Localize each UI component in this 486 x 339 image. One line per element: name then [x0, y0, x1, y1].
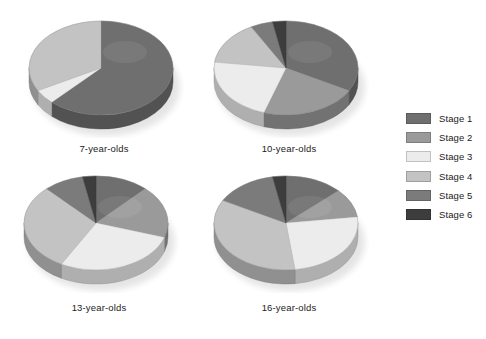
legend-item-stage-5: Stage 5: [406, 186, 484, 205]
pie-label-7-year-olds: 7-year-olds: [18, 143, 190, 154]
legend-swatch-stage-1: [406, 113, 431, 124]
legend-label-stage-6: Stage 6: [439, 209, 472, 220]
pie-canvas-16-year-olds: [203, 163, 375, 293]
legend-item-stage-6: Stage 6: [406, 205, 484, 224]
pie-chart-7-year-olds: 7-year-olds: [18, 8, 190, 160]
legend-swatch-stage-3: [406, 151, 431, 162]
legend-item-stage-1: Stage 1: [406, 109, 484, 128]
pie-chart-10-year-olds: 10-year-olds: [203, 8, 375, 160]
pie-canvas-7-year-olds: [18, 8, 190, 138]
legend-item-stage-2: Stage 2: [406, 128, 484, 147]
legend-label-stage-5: Stage 5: [439, 190, 472, 201]
pie-label-13-year-olds: 13-year-olds: [13, 302, 185, 313]
legend-swatch-stage-2: [406, 132, 431, 143]
pie-label-16-year-olds: 16-year-olds: [203, 302, 375, 313]
chart-legend: Stage 1 Stage 2 Stage 3 Stage 4 Stage 5 …: [406, 109, 484, 224]
pie-canvas-10-year-olds: [203, 8, 375, 138]
pie-canvas-13-year-olds: [13, 163, 185, 293]
legend-label-stage-1: Stage 1: [439, 113, 472, 124]
legend-swatch-stage-4: [406, 171, 431, 182]
pie-chart-figure: 7-year-olds 10-year-olds 13-year-olds 16…: [0, 0, 486, 339]
legend-label-stage-3: Stage 3: [439, 151, 472, 162]
legend-item-stage-4: Stage 4: [406, 167, 484, 186]
legend-swatch-stage-6: [406, 209, 431, 220]
pie-chart-13-year-olds: 13-year-olds: [13, 163, 185, 315]
pie-label-10-year-olds: 10-year-olds: [203, 143, 375, 154]
legend-swatch-stage-5: [406, 190, 431, 201]
legend-item-stage-3: Stage 3: [406, 147, 484, 166]
pie-chart-16-year-olds: 16-year-olds: [203, 163, 375, 315]
legend-label-stage-2: Stage 2: [439, 132, 472, 143]
legend-label-stage-4: Stage 4: [439, 171, 472, 182]
